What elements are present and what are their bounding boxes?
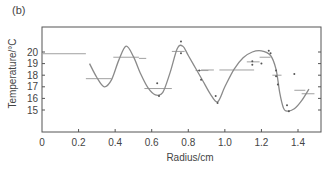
data-point [293, 73, 295, 75]
y-tick-label: 20 [27, 47, 39, 58]
data-point [156, 82, 158, 84]
data-point [270, 52, 272, 54]
y-tick-label: 18 [27, 70, 39, 81]
fitted-curve-line [90, 45, 309, 111]
x-tick-label: 0.2 [72, 137, 86, 148]
y-tick-label: 17 [27, 81, 39, 92]
x-tick-label: 1.0 [218, 137, 232, 148]
fitted-curve [90, 45, 309, 111]
data-point [158, 95, 160, 97]
data-point [180, 52, 182, 54]
x-tick-label: 0.8 [181, 137, 195, 148]
interval-mean-segments [42, 51, 314, 93]
x-tick-label: 1.4 [291, 137, 305, 148]
data-point [277, 83, 279, 85]
data-point [251, 64, 253, 66]
data-point [275, 70, 277, 72]
data-point [286, 104, 288, 106]
x-tick-label: 0.4 [108, 137, 122, 148]
data-point [275, 75, 277, 77]
chart-plot: 00.20.40.60.81.01.21.4 151617181920 [0, 0, 331, 172]
data-point [268, 50, 270, 52]
data-point [198, 70, 200, 72]
y-tick-label: 15 [27, 105, 39, 116]
x-tick-label: 1.2 [254, 137, 268, 148]
data-point [217, 102, 219, 104]
data-point [180, 41, 182, 43]
data-point [200, 79, 202, 81]
data-point [251, 60, 253, 62]
data-point [215, 95, 217, 97]
x-tick-label: 0.6 [145, 137, 159, 148]
y-tick-label: 19 [27, 58, 39, 69]
plot-frame [42, 27, 321, 132]
data-point [288, 110, 290, 112]
x-tick-label: 0 [39, 137, 45, 148]
y-tick-label: 16 [27, 93, 39, 104]
plot-border [42, 27, 321, 132]
data-point [260, 63, 262, 65]
